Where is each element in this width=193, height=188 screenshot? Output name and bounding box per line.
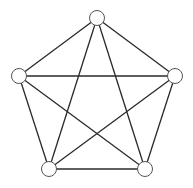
node-right [168, 69, 183, 84]
node-bottom-left [42, 162, 57, 177]
edge-left-bottom-left [19, 76, 49, 169]
node-bottom-right [138, 162, 153, 177]
edges-group [19, 18, 175, 169]
edge-top-right [97, 18, 175, 76]
edge-right-bottom-left [49, 76, 175, 169]
edge-left-bottom-right [19, 76, 145, 169]
edge-top-left [19, 18, 97, 76]
nodes-group [12, 11, 183, 177]
node-top [90, 11, 105, 26]
node-left [12, 69, 27, 84]
edge-top-bottom-left [49, 18, 97, 169]
edge-right-bottom-right [145, 76, 175, 169]
edge-top-bottom-right [97, 18, 145, 169]
k5-graph-diagram [0, 0, 193, 188]
